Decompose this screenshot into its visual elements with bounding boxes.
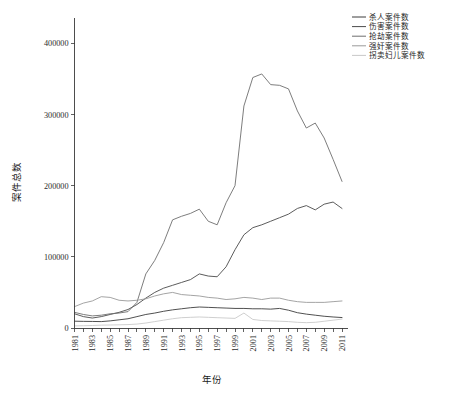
- x-tick-label: 1983: [88, 335, 97, 351]
- x-tick-label: 2007: [302, 335, 311, 351]
- series-line-1: [75, 202, 343, 318]
- series-line-2: [75, 74, 343, 316]
- x-tick-label: 2011: [338, 335, 347, 351]
- legend: 杀人案件数伤害案件数抢劫案件数强奸案件数拐卖妇儿案件数: [352, 12, 425, 60]
- y-tick-label: 100000: [44, 253, 69, 262]
- x-tick-label: 1985: [106, 335, 115, 351]
- x-tick-label: 1995: [195, 335, 204, 351]
- series-line-3: [75, 292, 343, 306]
- y-axis-title: 案件总数: [11, 162, 22, 202]
- x-tick-label: 2001: [249, 335, 258, 351]
- y-tick-label: 0: [64, 324, 68, 333]
- x-tick-label: 1999: [231, 335, 240, 351]
- figure-caption: [0, 387, 452, 396]
- x-tick-label: 1997: [213, 335, 222, 351]
- y-tick-label: 300000: [44, 111, 69, 120]
- x-tick-label: 2005: [285, 335, 294, 351]
- x-tick-label: 1991: [160, 335, 169, 351]
- y-tick-label: 400000: [44, 39, 69, 48]
- x-tick-label: 2009: [320, 335, 329, 351]
- chart-figure: 0100000200000300000400000198119831985198…: [0, 0, 452, 396]
- line-chart-svg: 0100000200000300000400000198119831985198…: [0, 0, 452, 396]
- axis-layer: [75, 18, 349, 328]
- x-axis-title: 年份: [202, 374, 222, 385]
- y-tick-label: 200000: [44, 182, 69, 191]
- legend-label-4: 拐卖妇儿案件数: [369, 50, 425, 60]
- legend-label-3: 强奸案件数: [369, 41, 409, 51]
- x-tick-label: 1989: [142, 335, 151, 351]
- series-layer: [75, 74, 343, 326]
- legend-label-1: 伤害案件数: [369, 21, 409, 31]
- legend-label-0: 杀人案件数: [369, 12, 409, 22]
- series-line-0: [75, 307, 343, 322]
- tick-labels-layer: 0100000200000300000400000198119831985198…: [44, 39, 347, 351]
- series-line-4: [75, 313, 343, 326]
- legend-label-2: 抢劫案件数: [369, 31, 409, 41]
- x-tick-label: 1981: [71, 335, 80, 351]
- x-tick-label: 1993: [178, 335, 187, 351]
- x-tick-label: 1987: [124, 335, 133, 351]
- x-tick-label: 2003: [267, 335, 276, 351]
